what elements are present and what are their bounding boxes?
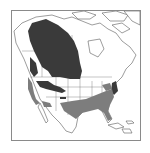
isolated-breeding-patch — [60, 97, 66, 99]
north-america-map — [12, 11, 140, 140]
range-map — [11, 10, 141, 141]
